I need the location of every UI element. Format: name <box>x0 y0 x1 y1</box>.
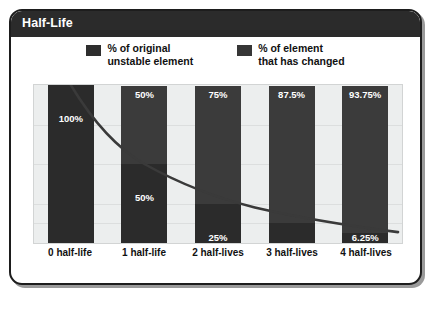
bar-label-changed: 50% <box>135 89 154 100</box>
bar-label-original: 6.25% <box>352 232 379 243</box>
bar-label-original: 25% <box>208 232 227 243</box>
bar-group: 100% 50% 50% 75% <box>34 85 402 243</box>
x-tick-label-3: 3 half-lives <box>255 247 329 258</box>
page-title: Half-Life <box>22 16 73 30</box>
bar-segment-original: 6.25% <box>342 233 388 243</box>
bar-segment-original: 100% <box>48 85 94 243</box>
table-row[interactable]: 100% <box>48 85 94 243</box>
legend-item-changed: % of element that has changed <box>237 42 344 80</box>
table-row[interactable]: 75% 25% <box>195 85 241 243</box>
chart-legend: % of original unstable element % of elem… <box>11 42 420 80</box>
x-tick-label-2: 2 half-lives <box>181 247 255 258</box>
bar-segment-changed: 87.5% <box>269 85 315 223</box>
bar-slot-0: 100% <box>34 85 108 243</box>
bar-label-original: 50% <box>135 192 154 203</box>
bar-slot-3: 87.5% 12.5% <box>255 85 329 243</box>
bar-slot-4: 93.75% 6.25% <box>328 85 402 243</box>
panel-title-bar: Half-Life <box>11 11 420 37</box>
plot-area: 100% 50% 50% 75% <box>33 84 403 244</box>
bar-label-changed: 75% <box>208 89 227 100</box>
bar-slot-2: 75% 25% <box>181 85 255 243</box>
bar-segment-changed: 50% <box>121 85 167 164</box>
bar-slot-1: 50% 50% <box>108 85 182 243</box>
bar-segment-original: 25% <box>195 204 241 244</box>
bar-label-changed: 87.5% <box>278 89 305 100</box>
bar-label-changed: 93.75% <box>349 89 381 100</box>
legend-label-original: % of original unstable element <box>107 42 193 67</box>
x-axis-labels: 0 half-life 1 half-life 2 half-lives 3 h… <box>33 247 403 258</box>
x-tick-label-1: 1 half-life <box>107 247 181 258</box>
table-row[interactable]: 50% 50% <box>121 85 167 243</box>
bar-segment-original: 12.5% <box>269 223 315 243</box>
x-tick-label-0: 0 half-life <box>33 247 107 258</box>
legend-item-original: % of original unstable element <box>86 42 193 80</box>
table-row[interactable]: 87.5% 12.5% <box>269 85 315 243</box>
bar-segment-changed: 93.75% <box>342 85 388 233</box>
legend-label-changed: % of element that has changed <box>258 42 344 67</box>
x-tick-label-4: 4 half-lives <box>329 247 403 258</box>
bar-label-original: 100% <box>59 113 83 124</box>
half-life-chart-panel: Half-Life % of original unstable element… <box>9 9 422 285</box>
dark-swatch-icon <box>86 45 101 56</box>
bar-segment-changed: 75% <box>195 85 241 204</box>
bar-segment-original: 50% <box>121 164 167 243</box>
table-row[interactable]: 93.75% 6.25% <box>342 85 388 243</box>
gray-swatch-icon <box>237 45 252 56</box>
